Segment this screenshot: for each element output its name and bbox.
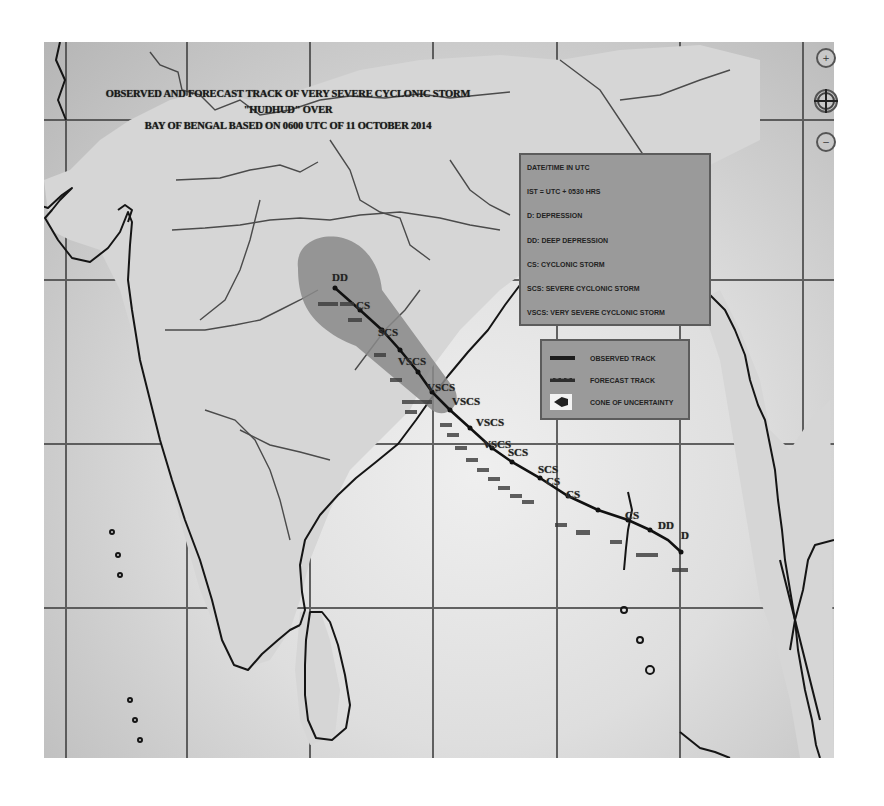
track-category-label: DD [332,271,348,283]
legend-tracks: OBSERVED TRACK FORECAST TRACK CONE OF UN… [540,339,690,420]
legend-observed-track: OBSERVED TRACK [550,347,680,369]
legend-item-severe-cyclonic-storm: SCS: SEVERE CYCLONIC STORM [527,282,703,306]
map-title-line-2: BAY OF BENGAL BASED ON 0600 UTC OF 11 OC… [78,118,498,134]
track-category-label: VSCS [452,395,480,407]
track-category-label: SCS [378,326,398,338]
track-category-label: CS [356,299,370,311]
legend-cone-label: CONE OF UNCERTAINTY [590,399,673,406]
legend-item-datetime: DATE/TIME IN UTC [527,161,703,185]
zoom-in-icon: + [822,53,830,63]
legend-item-cyclonic-storm: CS: CYCLONIC STORM [527,258,703,282]
map-canvas[interactable] [44,42,834,758]
zoom-out-icon: − [822,137,830,147]
legend-cone-of-uncertainty: CONE OF UNCERTAINTY [550,391,680,413]
track-category-label: CS [546,475,560,487]
forecast-track-swatch-icon [550,378,575,382]
legend-forecast-track: FORECAST TRACK [550,369,680,391]
map-drawing [44,42,834,758]
zoom-out-button[interactable]: − [816,132,836,152]
track-category-label: CS [566,488,580,500]
track-category-label: VSCS [398,355,426,367]
track-category-label: D [681,529,689,541]
legend-observed-track-label: OBSERVED TRACK [590,355,656,362]
pan-control[interactable] [814,89,838,113]
legend-abbreviations: DATE/TIME IN UTC IST = UTC + 0530 HRS D:… [519,153,711,326]
legend-item-depression: D: DEPRESSION [527,209,703,233]
legend-item-very-severe-cyclonic-storm: VSCS: VERY SEVERE CYCLONIC STORM [527,306,703,330]
track-category-label: DD [658,519,674,531]
map-title: OBSERVED AND FORECAST TRACK OF VERY SEVE… [78,86,498,134]
zoom-in-button[interactable]: + [816,48,836,68]
legend-forecast-track-label: FORECAST TRACK [590,377,655,384]
pan-compass-icon [814,89,838,113]
track-category-label: VSCS [483,438,511,450]
track-category-label: VSCS [476,416,504,428]
track-category-label: SCS [538,463,558,475]
cone-swatch-icon [550,394,572,410]
track-category-label: CS [625,509,639,521]
track-category-label: SCS [508,446,528,458]
legend-item-deep-depression: DD: DEEP DEPRESSION [527,234,703,258]
track-category-label: VSCS [427,381,455,393]
legend-item-ist: IST = UTC + 0530 HRS [527,185,703,209]
observed-track-swatch-icon [550,356,575,360]
map-title-line-1: OBSERVED AND FORECAST TRACK OF VERY SEVE… [78,86,498,118]
